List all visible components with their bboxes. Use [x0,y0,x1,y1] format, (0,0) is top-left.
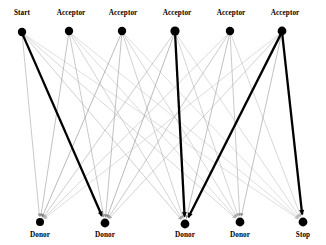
bottom-node-label-0: Donor [30,232,50,239]
edge [175,32,299,217]
edge [106,32,122,217]
edge-layer-bold [22,32,302,217]
edge [282,32,302,215]
bottom-node-label-1: Donor [95,232,115,239]
edge-layer-light [22,32,301,219]
edge [108,32,230,218]
graph-canvas [0,0,326,245]
edge-arrowhead [240,213,243,217]
top-node-label-1: Acceptor [57,10,86,17]
edge [41,32,69,216]
edge [186,32,230,218]
edge [107,32,175,217]
edge [175,32,185,216]
edge [22,33,102,216]
top-node-1[interactable] [65,27,73,35]
edge [45,32,282,218]
arrow-layer [38,210,305,220]
top-node-label-2: Acceptor [109,10,138,17]
bottom-node-2[interactable] [181,220,190,229]
bottom-node-3[interactable] [236,218,245,227]
bottom-node-0[interactable] [36,218,44,226]
edge [69,32,104,217]
bottom-node-label-4: Stop [296,232,310,239]
edge [230,32,301,216]
top-node-3[interactable] [170,26,179,35]
top-node-label-0: Start [14,10,30,17]
top-node-4[interactable] [226,27,234,35]
top-node-label-4: Acceptor [217,10,246,17]
edge [122,32,183,218]
top-node-label-5: Acceptor [271,10,300,17]
edge [22,33,39,216]
top-node-2[interactable] [118,27,126,35]
edge [22,33,181,219]
bottom-node-4[interactable] [299,218,308,227]
bottom-node-label-2: Donor [175,232,195,239]
edge [122,32,299,218]
transition-diagram: StartAcceptorAcceptorAcceptorAcceptorAcc… [0,0,326,245]
bottom-node-label-3: Donor [230,232,250,239]
bottom-node-1[interactable] [101,219,110,228]
edge [175,32,238,216]
top-node-label-3: Acceptor [163,10,192,17]
top-node-0[interactable] [18,28,26,36]
top-node-5[interactable] [278,27,287,36]
